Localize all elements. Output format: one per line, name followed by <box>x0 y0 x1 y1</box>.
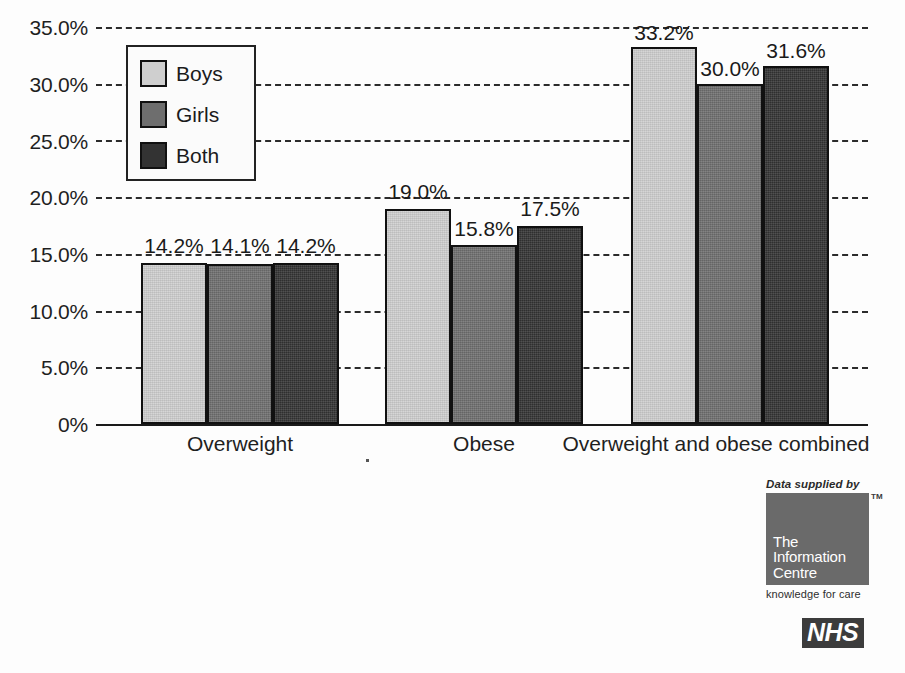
data-source-logo-block: Data supplied by The Information Centre … <box>766 478 896 600</box>
x-axis-label-overweight: Overweight <box>140 432 340 456</box>
bar-value-overweight-girls: 14.1% <box>203 235 277 256</box>
bar-obese-girls[interactable] <box>451 245 517 424</box>
data-supplied-by-text: Data supplied by <box>766 478 896 490</box>
information-centre-tagline: knowledge for care <box>766 588 896 600</box>
trademark-icon: TM <box>871 492 883 501</box>
information-centre-logo-text: The Information Centre <box>773 534 846 581</box>
y-tick-label: 5.0% <box>4 357 88 378</box>
nhs-logo: NHS <box>802 618 864 648</box>
bar-obese-boys[interactable] <box>385 209 451 425</box>
y-tick-label: 10.0% <box>4 301 88 322</box>
information-centre-logo-box: The Information Centre <box>766 493 869 585</box>
legend-label-both: Both <box>176 145 219 166</box>
logo-line-the: The <box>773 534 846 550</box>
legend-label-boys: Boys <box>176 63 223 84</box>
y-tick-label: 15.0% <box>4 244 88 265</box>
scan-artifact-dot <box>366 459 369 462</box>
y-tick-label: 0% <box>4 414 88 435</box>
x-axis-label-combined: Overweight and obese combined <box>546 432 886 456</box>
y-tick-label: 35.0% <box>4 17 88 38</box>
bar-value-overweight-boys: 14.2% <box>137 235 211 256</box>
legend-item-girls[interactable]: Girls <box>140 101 219 128</box>
bar-value-combined-both: 31.6% <box>759 40 833 61</box>
bar-value-combined-girls: 30.0% <box>693 58 767 79</box>
y-tick-label: 20.0% <box>4 187 88 208</box>
y-axis: 35.0% 30.0% 25.0% 20.0% 15.0% 10.0% 5.0%… <box>0 27 88 424</box>
legend-swatch-boys-icon <box>140 60 167 87</box>
bar-overweight-girls[interactable] <box>207 264 273 424</box>
legend-swatch-both-icon <box>140 142 167 169</box>
y-tick-label: 30.0% <box>4 74 88 95</box>
logo-line-centre: Centre <box>773 565 846 581</box>
legend: Boys Girls Both <box>126 45 256 181</box>
legend-label-girls: Girls <box>176 104 219 125</box>
legend-item-both[interactable]: Both <box>140 142 219 169</box>
bar-combined-both[interactable] <box>763 66 829 424</box>
bar-value-combined-boys: 33.2% <box>627 22 701 43</box>
bar-value-overweight-both: 14.2% <box>269 235 343 256</box>
bar-obese-both[interactable] <box>517 226 583 425</box>
gridline-35 <box>96 27 868 29</box>
bar-overweight-boys[interactable] <box>141 263 207 424</box>
bar-combined-girls[interactable] <box>697 84 763 424</box>
information-centre-logo: The Information Centre TM <box>766 493 873 585</box>
bar-chart-figure: 35.0% 30.0% 25.0% 20.0% 15.0% 10.0% 5.0%… <box>0 0 905 475</box>
logo-line-information: Information <box>773 549 846 565</box>
bar-value-obese-boys: 19.0% <box>381 181 455 202</box>
bar-value-obese-both: 17.5% <box>513 198 587 219</box>
legend-item-boys[interactable]: Boys <box>140 60 223 87</box>
bar-value-obese-girls: 15.8% <box>447 218 521 239</box>
bar-combined-boys[interactable] <box>631 47 697 424</box>
bar-overweight-both[interactable] <box>273 263 339 424</box>
legend-swatch-girls-icon <box>140 101 167 128</box>
y-tick-label: 25.0% <box>4 131 88 152</box>
gridline-0-baseline <box>96 424 868 426</box>
